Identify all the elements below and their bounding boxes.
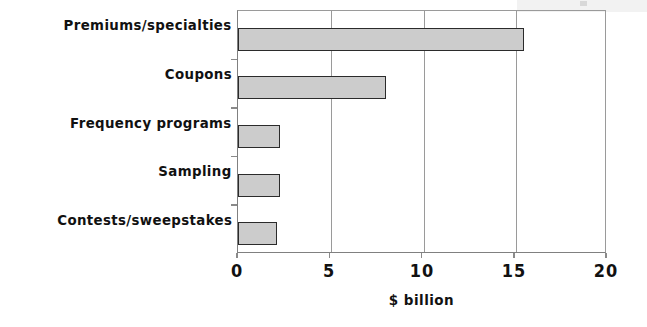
x-axis-tick: [605, 253, 607, 258]
x-tick-label: 0: [209, 261, 266, 281]
x-tick-label: 5: [301, 261, 358, 281]
category-label: Sampling: [159, 163, 232, 179]
bar-contests-sweepstakes: [238, 222, 277, 245]
bar-premiums-specialties: [238, 28, 524, 51]
category-label: Coupons: [165, 66, 232, 82]
x-tick-label: 20: [578, 261, 635, 281]
bar-coupons: [238, 76, 386, 99]
y-axis-tick: [231, 59, 237, 61]
scan-artifact-mark: [580, 1, 587, 6]
y-axis-tick: [231, 156, 237, 158]
y-axis-tick: [231, 107, 237, 109]
x-axis-tick: [513, 253, 515, 258]
category-label: Premiums/specialties: [64, 17, 232, 33]
x-axis-title: $ billion: [250, 292, 593, 308]
chart-page: Premiums/specialties Coupons Frequency p…: [0, 0, 647, 327]
category-label: Frequency programs: [70, 115, 232, 131]
plot-area: [237, 10, 606, 253]
y-axis-tick: [231, 204, 237, 206]
category-label: Contests/sweepstakes: [57, 212, 232, 228]
category-axis-labels: Premiums/specialties Coupons Frequency p…: [0, 0, 232, 327]
x-axis-tick: [236, 253, 238, 258]
x-tick-label: 10: [393, 261, 450, 281]
x-axis-tick: [421, 253, 423, 258]
bar-frequency-programs: [238, 125, 280, 148]
x-tick-label: 15: [485, 261, 542, 281]
bar-sampling: [238, 174, 280, 197]
x-axis-tick: [329, 253, 331, 258]
